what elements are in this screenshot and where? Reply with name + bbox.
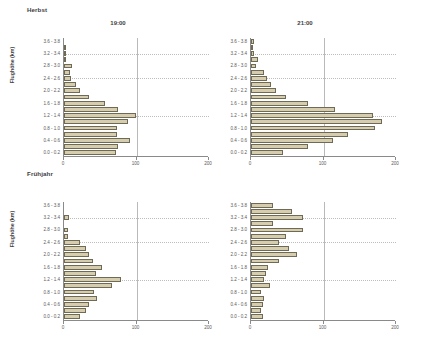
- histogram-bar: [251, 70, 264, 75]
- histogram-bar: [64, 82, 76, 87]
- x-axis-tick-label: 100: [132, 325, 140, 330]
- x-axis-tick-label: 100: [319, 325, 327, 330]
- y-axis-title-fruehjahr: Flughöhe (km): [9, 199, 15, 259]
- histogram-bar: [251, 51, 254, 56]
- histogram-bar: [64, 101, 105, 106]
- y-axis-tick-label: 2.8 - 3.0: [231, 227, 247, 232]
- histogram-bar: [64, 57, 66, 62]
- histogram-bar: [251, 314, 263, 319]
- histogram-bar: [64, 259, 93, 264]
- y-axis-tick-label: 1.6 - 1.8: [44, 265, 60, 270]
- y-axis-labels-herbst-21: 3.6 - 3.83.2 - 3.42.8 - 3.02.4 - 2.62.0 …: [215, 38, 249, 156]
- y-axis-tick-label: 0.0 - 0.2: [44, 314, 60, 319]
- histogram-bar: [251, 126, 375, 131]
- histogram-bar: [251, 119, 382, 124]
- histogram-bar: [64, 302, 89, 307]
- histogram-bar: [64, 277, 121, 282]
- x-axis-tick: [63, 321, 64, 324]
- histogram-bar: [64, 271, 96, 276]
- x-axis-tick: [208, 157, 209, 160]
- y-axis-tick-label: 2.0 - 2.2: [231, 252, 247, 257]
- y-axis-tick-label: 0.4 - 0.6: [231, 302, 247, 307]
- panel-row-herbst: Herbst Flughöhe (km) 19:00 3.6 - 3.83.2 …: [0, 6, 427, 171]
- histogram-bar: [251, 209, 292, 214]
- x-axis-tick-label: 100: [319, 161, 327, 166]
- plot-area-fruehjahr-19: [63, 202, 209, 320]
- histogram-bar: [251, 57, 258, 62]
- histogram-bar: [64, 252, 89, 257]
- season-label-herbst: Herbst: [27, 6, 47, 13]
- gridline-vertical: [137, 38, 138, 156]
- y-axis-tick-label: 3.2 - 3.4: [231, 215, 247, 220]
- figure-container: Herbst Flughöhe (km) 19:00 3.6 - 3.83.2 …: [0, 0, 427, 339]
- histogram-bar: [251, 296, 264, 301]
- histogram-bar: [251, 138, 333, 143]
- y-axis-tick-label: 1.2 - 1.4: [231, 113, 247, 118]
- histogram-bar: [251, 76, 267, 81]
- x-axis-tick: [323, 157, 324, 160]
- y-axis-tick-label: 3.2 - 3.4: [44, 215, 60, 220]
- y-axis-labels-fruehjahr-19: 3.6 - 3.83.2 - 3.42.8 - 3.02.4 - 2.62.0 …: [28, 202, 62, 320]
- y-axis-tick-label: 1.6 - 1.8: [44, 101, 60, 106]
- histogram-bar: [64, 64, 72, 69]
- histogram-bar: [251, 240, 279, 245]
- y-axis-tick-label: 0.0 - 0.2: [44, 150, 60, 155]
- histogram-bar: [64, 107, 118, 112]
- histogram-bar: [251, 252, 297, 257]
- plot-area-fruehjahr-21: [250, 202, 396, 320]
- histogram-bar: [64, 113, 136, 118]
- y-axis-tick-label: 1.6 - 1.8: [231, 265, 247, 270]
- panel-title-herbst-19: 19:00: [28, 20, 208, 26]
- y-axis-tick-label: 2.8 - 3.0: [44, 227, 60, 232]
- histogram-bar: [251, 290, 261, 295]
- y-axis-tick-label: 3.6 - 3.8: [231, 203, 247, 208]
- y-axis-tick-label: 0.4 - 0.6: [44, 302, 60, 307]
- y-axis-labels-fruehjahr-21: 3.6 - 3.83.2 - 3.42.8 - 3.02.4 - 2.62.0 …: [215, 202, 249, 320]
- y-axis-tick-label: 2.4 - 2.6: [231, 76, 247, 81]
- histogram-bar: [251, 228, 303, 233]
- y-axis-tick-label: 0.8 - 1.0: [44, 126, 60, 131]
- histogram-bar: [64, 76, 71, 81]
- histogram-bar: [251, 215, 303, 220]
- histogram-bar: [251, 64, 256, 69]
- plot-area-herbst-19: [63, 38, 209, 156]
- panel-title-herbst-21: 21:00: [215, 20, 395, 26]
- x-axis-tick: [250, 321, 251, 324]
- x-axis-tick: [208, 321, 209, 324]
- histogram-bar: [64, 51, 66, 56]
- y-axis-tick-label: 0.8 - 1.0: [231, 290, 247, 295]
- x-axis-herbst-19: 0100200: [63, 156, 208, 157]
- x-axis-tick: [136, 157, 137, 160]
- y-axis-tick-label: 0.8 - 1.0: [231, 126, 247, 131]
- histogram-bar: [64, 290, 94, 295]
- y-axis-tick-label: 0.8 - 1.0: [44, 290, 60, 295]
- histogram-bar: [64, 126, 117, 131]
- histogram-bar: [251, 265, 268, 270]
- x-axis-tick-label: 200: [391, 325, 399, 330]
- histogram-bar: [251, 101, 308, 106]
- x-axis-fruehjahr-19: 0100200: [63, 320, 208, 321]
- y-axis-tick-label: 3.6 - 3.8: [231, 39, 247, 44]
- y-axis-tick-label: 1.2 - 1.4: [44, 277, 60, 282]
- y-axis-tick-label: 0.0 - 0.2: [231, 314, 247, 319]
- y-axis-tick-label: 2.0 - 2.2: [44, 88, 60, 93]
- panel-row-fruehjahr: Frühjahr Flughöhe (km) 3.6 - 3.83.2 - 3.…: [0, 170, 427, 339]
- x-axis-tick-label: 0: [249, 325, 252, 330]
- histogram-bar: [64, 150, 116, 155]
- x-axis-tick-label: 200: [391, 161, 399, 166]
- y-axis-tick-label: 0.4 - 0.6: [231, 138, 247, 143]
- histogram-bar: [64, 283, 112, 288]
- histogram-bar: [251, 271, 266, 276]
- histogram-bar: [251, 95, 286, 100]
- histogram-bar: [251, 302, 263, 307]
- y-axis-tick-label: 2.0 - 2.2: [44, 252, 60, 257]
- histogram-bar: [251, 234, 286, 239]
- gridline-vertical: [137, 202, 138, 320]
- y-axis-tick-label: 3.2 - 3.4: [44, 51, 60, 56]
- histogram-bar: [64, 314, 80, 319]
- histogram-bar: [64, 308, 86, 313]
- x-axis-tick: [250, 157, 251, 160]
- histogram-bar: [251, 308, 261, 313]
- histogram-bar: [251, 45, 253, 50]
- histogram-bar: [64, 234, 68, 239]
